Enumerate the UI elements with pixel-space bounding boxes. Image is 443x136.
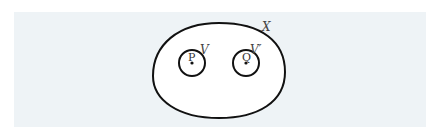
space-x-label: X <box>261 20 271 34</box>
neighborhood-v-prime-label: V′ <box>250 43 262 57</box>
point-p-label: P <box>188 51 196 64</box>
diagram-canvas: X P V Q V′ <box>0 0 443 136</box>
neighborhood-v-label: V <box>200 43 210 57</box>
space-x-region <box>153 23 285 118</box>
